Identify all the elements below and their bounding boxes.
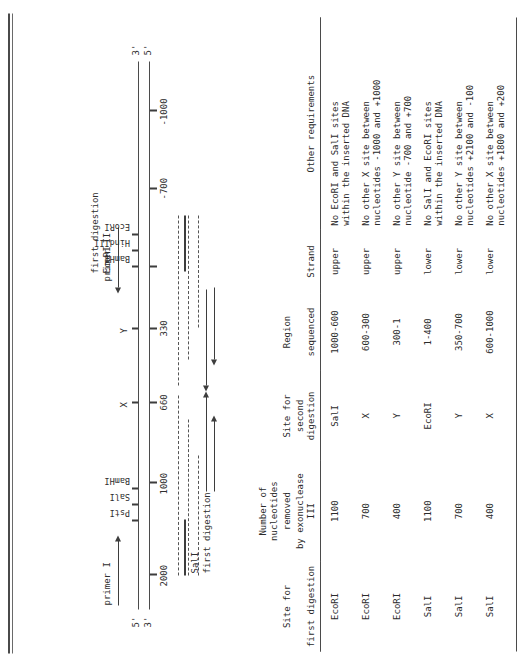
requirement-line-2: nucleotide -700 and +700 xyxy=(403,21,414,225)
cell-region: 600-1000 xyxy=(481,293,512,371)
ecor1-arrow-line-1 xyxy=(206,289,207,385)
strand-label-3prime-right: 3' xyxy=(131,44,141,55)
requirement-line-1: No other Y site between xyxy=(392,21,403,225)
header-row-top: Number of nucleotides xyxy=(258,17,282,651)
table-row: SalI 1100 EcoRI 1-400 lower No SalI and … xyxy=(419,17,450,651)
page-top-rule-thin xyxy=(12,13,13,653)
cell-removed: 400 xyxy=(481,461,512,561)
scale-tick-2000 xyxy=(150,573,157,575)
requirement-line-2: within the inserted DNA xyxy=(434,21,445,225)
page-top-rule xyxy=(8,13,10,653)
scale-label-2000: 2000 xyxy=(159,564,169,586)
th-second-site-line1: Site for xyxy=(282,370,295,460)
th-second-site-line2: second digestion xyxy=(295,370,321,460)
site-tick-pst1 xyxy=(132,519,138,521)
sal1-arrowhead-2 xyxy=(211,415,217,421)
th-other-line2: Other requirements xyxy=(295,17,321,229)
th-spacer-5 xyxy=(258,17,282,229)
primer-1-arrow-line xyxy=(118,539,119,605)
cell-strand: lower xyxy=(419,229,450,292)
site-tick-bam1-right xyxy=(132,265,138,267)
requirement-line-2: nucleotides +1800 and +200 xyxy=(496,21,507,225)
table-row: EcoRI 1100 SalI 1000-600 upper No EcoRI … xyxy=(321,17,357,651)
th-spacer-2 xyxy=(258,370,282,460)
cell-removed: 1100 xyxy=(419,461,450,561)
table-bottom-rule xyxy=(516,17,517,651)
scale-label-1000: 1000 xyxy=(159,472,169,494)
cell-second-site: EcoRI xyxy=(419,370,450,460)
cell-second-site: Y xyxy=(388,370,419,460)
cell-second-site: X xyxy=(481,370,512,460)
scale-tick-1000 xyxy=(150,481,157,483)
table-body: EcoRI 1100 SalI 1000-600 upper No EcoRI … xyxy=(321,17,512,651)
site-label-bam1-left: BamHI xyxy=(104,475,130,485)
table-row: SalI 400 X 600-1000 lower No other X sit… xyxy=(481,17,512,651)
th-region-line2: sequenced xyxy=(295,293,321,371)
sal1-dashed-line-2 xyxy=(188,419,189,575)
table-head: Number of nucleotides Site for removed S… xyxy=(258,17,321,651)
cell-requirement: No other Y site between nucleotides +210… xyxy=(450,17,481,229)
cell-region: 1000-600 xyxy=(321,293,357,371)
th-strand-line2: Strand xyxy=(295,229,321,292)
dna-lower-strand xyxy=(149,61,150,609)
ecor1-arrow-line-2 xyxy=(214,287,215,359)
requirement-line-2: nucleotides -1000 and +1000 xyxy=(372,21,383,225)
sal1-digestion-sublabel: first digestion xyxy=(202,492,212,573)
cell-removed: 1100 xyxy=(321,461,357,561)
requirement-line-1: No EcoRI and SalI sites xyxy=(330,21,341,225)
restriction-map-diagram: 5' 3' 3' 5' primer I primer II 2000 1000… xyxy=(18,0,250,671)
cell-region: 600-300 xyxy=(357,293,388,371)
requirement-line-2: within the inserted DNA xyxy=(341,21,352,225)
strand-label-3prime-left: 3' xyxy=(143,616,153,627)
th-strand-line1 xyxy=(282,229,295,292)
cell-region: 1-400 xyxy=(419,293,450,371)
scale-tick-minus700 xyxy=(150,187,157,189)
table-row: EcoRI 700 X 600-300 upper No other X sit… xyxy=(357,17,388,651)
cell-second-site: X xyxy=(357,370,388,460)
site-label-x: X xyxy=(119,402,129,407)
ecor1-dashed-line-1 xyxy=(178,215,179,385)
site-tick-bam1-left xyxy=(132,487,138,489)
sal1-arrow-line-1 xyxy=(206,395,207,491)
th-first-site-line2: first digestion xyxy=(295,561,321,651)
cell-removed: 700 xyxy=(450,461,481,561)
site-tick-x xyxy=(132,401,138,403)
sal1-arrowhead-1 xyxy=(203,391,209,397)
cell-strand: lower xyxy=(481,229,512,292)
cell-strand: upper xyxy=(388,229,419,292)
site-tick-hind3 xyxy=(132,249,138,251)
ecor1-dashed-line-3 xyxy=(198,215,199,327)
primer-2-arrowhead xyxy=(115,287,121,293)
cell-first-site: EcoRI xyxy=(321,561,357,651)
header-row-bottom: first digestion by exonuclease III secon… xyxy=(295,17,321,651)
sal1-dashed-line-1 xyxy=(178,395,179,575)
th-removed-line0: Number of nucleotides xyxy=(258,461,282,561)
site-label-y: Y xyxy=(119,328,129,333)
cell-first-site: SalI xyxy=(419,561,450,651)
cell-requirement: No other X site between nucleotides -100… xyxy=(357,17,388,229)
requirement-line-1: No SalI and EcoRI sites xyxy=(423,21,434,225)
ecor1-digestion-sublabel: first digestion xyxy=(90,192,100,273)
th-spacer-3 xyxy=(258,293,282,371)
primer-1-label: primer I xyxy=(102,562,112,605)
requirement-line-2: nucleotides +2100 and -100 xyxy=(465,21,476,225)
th-first-site-line1: Site for xyxy=(282,561,295,651)
cell-second-site: Y xyxy=(450,370,481,460)
sal1-digestion-label: SalI xyxy=(190,551,200,573)
scale-label-330: 330 xyxy=(159,320,169,336)
site-label-sal1-left: SalI xyxy=(110,491,130,501)
ecor1-digestion-label: EcoRI xyxy=(102,246,112,273)
site-tick-ecor1-right xyxy=(132,233,138,235)
cell-region: 300-1 xyxy=(388,293,419,371)
site-tick-sal1-left xyxy=(132,503,138,505)
primer-1-arrowhead xyxy=(115,535,121,541)
data-table: Number of nucleotides Site for removed S… xyxy=(258,17,512,651)
th-spacer-1 xyxy=(258,561,282,651)
scale-tick-bam xyxy=(150,265,157,267)
ecor1-dashed-line-2 xyxy=(188,215,189,359)
scale-tick-minus1000 xyxy=(150,109,157,111)
cell-requirement: No other Y site between nucleotide -700 … xyxy=(388,17,419,229)
cell-requirement: No other X site between nucleotides +180… xyxy=(481,17,512,229)
strand-label-5prime-left: 5' xyxy=(131,616,141,627)
